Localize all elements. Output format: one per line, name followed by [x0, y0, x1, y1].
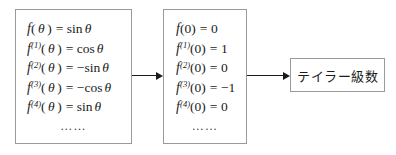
derivative-order: (3): [180, 75, 190, 95]
sign-symbol: −: [77, 58, 85, 78]
arrow-head: [283, 72, 290, 80]
continuation-dots: ……: [16, 117, 131, 137]
equals-sign: =: [62, 78, 77, 98]
arrow-values-to-result-icon: [247, 70, 290, 81]
equals-sign: =: [62, 58, 77, 78]
derivative-order: (1): [180, 36, 190, 56]
rhs-function: sin: [67, 19, 83, 39]
formula-row: f(4)(θ)=sinθ: [16, 97, 131, 117]
derivatives-box: f(θ)=sinθ f(1)(θ)=cosθ f(2)(θ)=−sinθ f(3…: [15, 9, 132, 144]
arrow-shaft: [247, 75, 284, 76]
equals-sign: =: [52, 19, 67, 39]
result-box: テイラー級数: [290, 58, 385, 92]
values-at-zero-box: f(0)=0 f(1)(0)=1 f(2)(0)=0 f(3)(0)=−1 f(…: [163, 9, 247, 144]
rhs-variable: θ: [83, 21, 92, 36]
arrow-shaft: [132, 75, 157, 76]
argument-value: 0: [195, 58, 202, 78]
rhs-function: cos: [77, 39, 95, 59]
equals-sign: =: [62, 97, 77, 117]
formula-row: f(2)(0)=0: [164, 58, 246, 78]
rhs-value: 0: [221, 97, 228, 117]
equals-sign: =: [206, 78, 221, 98]
rhs-value: 0: [211, 19, 218, 39]
equals-sign: =: [196, 19, 211, 39]
sign-symbol: −: [77, 78, 85, 98]
result-label: テイラー級数: [297, 66, 378, 85]
rhs-variable: θ: [95, 41, 104, 56]
continuation-dots: ……: [164, 117, 246, 137]
argument-value: θ: [46, 41, 58, 56]
arrow-derivatives-to-values-icon: [132, 70, 163, 81]
derivative-order: (2): [180, 56, 190, 76]
rhs-variable: θ: [102, 80, 111, 95]
rhs-value: 1: [229, 78, 236, 98]
argument-value: 0: [195, 97, 202, 117]
derivative-order: (4): [180, 95, 190, 115]
equals-sign: =: [206, 97, 221, 117]
derivative-order: (3): [31, 75, 41, 95]
argument-value: θ: [46, 60, 58, 75]
equals-sign: =: [206, 39, 221, 59]
equals-sign: =: [206, 58, 221, 78]
sign-symbol: −: [221, 78, 229, 98]
rhs-function: sin: [77, 97, 93, 117]
formula-row: f(4)(0)=0: [164, 97, 246, 117]
argument-value: 0: [195, 78, 202, 98]
argument-value: 0: [195, 39, 202, 59]
rhs-function: cos: [84, 78, 102, 98]
argument-value: θ: [36, 21, 48, 36]
argument-value: θ: [46, 80, 58, 95]
derivative-order: (4): [31, 95, 41, 115]
taylor-series-diagram: f(θ)=sinθ f(1)(θ)=cosθ f(2)(θ)=−sinθ f(3…: [0, 0, 396, 155]
derivatives-formula-list: f(θ)=sinθ f(1)(θ)=cosθ f(2)(θ)=−sinθ f(3…: [16, 10, 131, 143]
rhs-value: 1: [221, 39, 228, 59]
rhs-function: sin: [84, 58, 100, 78]
rhs-variable: θ: [100, 60, 109, 75]
formula-row: f(0)=0: [164, 19, 246, 39]
derivative-order: (2): [31, 56, 41, 76]
formula-row: f(3)(0)=−1: [164, 78, 246, 98]
argument-value: θ: [46, 99, 58, 114]
rhs-value: 0: [221, 58, 228, 78]
formula-row: f(1)(0)=1: [164, 39, 246, 59]
derivative-order: (1): [31, 36, 41, 56]
values-formula-list: f(0)=0 f(1)(0)=1 f(2)(0)=0 f(3)(0)=−1 f(…: [164, 10, 246, 143]
equals-sign: =: [62, 39, 77, 59]
rhs-variable: θ: [93, 99, 102, 114]
arrow-head: [156, 72, 163, 80]
